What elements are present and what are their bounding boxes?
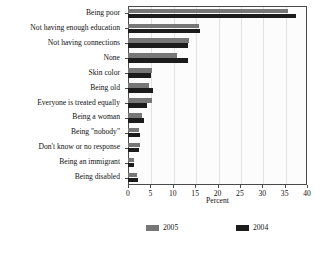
- category-label: None: [104, 51, 120, 66]
- bar-group: [128, 140, 307, 155]
- x-tick: [128, 185, 129, 188]
- category-axis-labels: Being poorNot having enough educationNot…: [0, 6, 125, 185]
- bar-2004: [128, 163, 134, 168]
- bar-group: [128, 95, 307, 110]
- bar-2004: [128, 133, 140, 138]
- bar-group: [128, 21, 307, 36]
- bar-2005: [128, 38, 189, 43]
- category-label: Don't know or no response: [38, 140, 120, 155]
- bar-2005: [128, 24, 199, 29]
- bar-2005: [128, 158, 134, 163]
- bar-2004: [128, 73, 151, 78]
- category-label: Being a woman: [72, 110, 120, 125]
- x-tick: [307, 185, 308, 188]
- bar-2004: [128, 178, 138, 183]
- category-label: Skin color: [89, 66, 120, 81]
- legend-swatch-2005: [146, 225, 159, 231]
- category-label: Being an immigrant: [59, 155, 120, 170]
- category-label: Being old: [90, 81, 120, 96]
- bar-2005: [128, 173, 137, 178]
- bar-group: [128, 6, 307, 21]
- category-label: Being poor: [86, 6, 120, 21]
- bar-2004: [128, 58, 188, 63]
- bar-2004: [128, 43, 188, 48]
- x-tick: [195, 185, 196, 188]
- bar-2004: [128, 103, 147, 108]
- bar-2005: [128, 68, 152, 73]
- legend-item-2005: 2005: [146, 223, 178, 232]
- bar-2004: [128, 29, 200, 34]
- bar-group: [128, 36, 307, 51]
- x-tick: [240, 185, 241, 188]
- bars-container: [128, 6, 307, 185]
- x-tick: [150, 185, 151, 188]
- x-axis-title: Percent: [128, 196, 307, 205]
- bar-group: [128, 66, 307, 81]
- category-label: Everyone is treated equally: [37, 96, 120, 111]
- legend-item-2004: 2004: [236, 223, 268, 232]
- bar-2004: [128, 88, 153, 93]
- bar-2005: [128, 9, 288, 14]
- category-label: Not having enough education: [30, 21, 120, 36]
- bar-group: [128, 155, 307, 170]
- bar-group: [128, 81, 307, 96]
- legend-swatch-2004: [236, 225, 249, 231]
- category-label: Not having connections: [48, 36, 120, 51]
- bar-chart: Being poorNot having enough educationNot…: [0, 0, 315, 254]
- bar-group: [128, 125, 307, 140]
- legend-label-2004: 2004: [253, 223, 268, 232]
- x-tick: [173, 185, 174, 188]
- category-label: Being disabled: [75, 170, 120, 185]
- bar-2005: [128, 113, 142, 118]
- bar-2005: [128, 83, 149, 88]
- x-tick: [218, 185, 219, 188]
- bar-2005: [128, 128, 139, 133]
- bar-group: [128, 110, 307, 125]
- bar-group: [128, 51, 307, 66]
- x-tick: [285, 185, 286, 188]
- bar-2005: [128, 143, 140, 148]
- x-tick: [262, 185, 263, 188]
- bar-2004: [128, 118, 144, 123]
- bar-group: [128, 170, 307, 185]
- bar-2004: [128, 148, 139, 153]
- bar-2004: [128, 14, 296, 19]
- category-label: Being "nobody": [71, 125, 120, 140]
- bar-2005: [128, 53, 177, 58]
- legend-label-2005: 2005: [163, 223, 178, 232]
- bar-2005: [128, 98, 152, 103]
- chart-legend: 2005 2004: [128, 223, 307, 237]
